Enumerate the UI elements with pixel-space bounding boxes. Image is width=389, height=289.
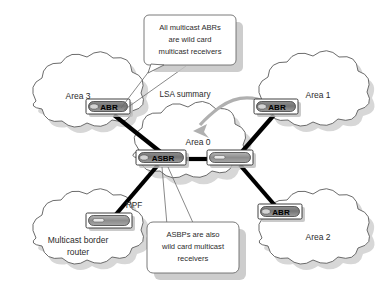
cloud-area-2: Area 2: [259, 189, 370, 264]
router-label-asbr-area-0: ASBR: [152, 154, 175, 163]
router-label-abr-area-2: ABR: [272, 208, 290, 217]
label-rpf: RPF: [126, 201, 142, 210]
cloud-label-area-0: Area 0: [185, 137, 210, 147]
cloud-label-mbr-line2: router: [67, 247, 89, 257]
router-core-area-0[interactable]: [207, 150, 256, 168]
router-multicast-border[interactable]: [86, 213, 135, 231]
callout-asbr-line-3: receivers: [178, 254, 209, 263]
cloud-label-area-2: Area 2: [305, 232, 330, 242]
link-core-to-area2: [240, 165, 278, 209]
label-lsa-summary: LSA summary: [160, 90, 212, 99]
diagram-canvas: Area 3 Area 1 Area 0 Multicast border ro…: [0, 0, 389, 289]
callout-abr-line-2: are wild card: [168, 35, 211, 44]
network-diagram: Area 3 Area 1 Area 0 Multicast border ro…: [0, 0, 389, 289]
router-label-abr-area-1: ABR: [268, 103, 286, 112]
router-abr-area-2[interactable]: ABR: [258, 204, 305, 222]
cloud-label-area-1: Area 1: [305, 90, 330, 100]
router-asbr-area-0[interactable]: ASBR: [136, 150, 189, 168]
callout-asbr: ASBPs are also wild card multicast recei…: [147, 167, 246, 280]
callout-abr-line-1: All multicast ABRs: [159, 23, 221, 32]
callout-abr-line-3: multicast receivers: [159, 47, 222, 56]
router-label-abr-area-3: ABR: [100, 103, 118, 112]
callout-asbr-line-1: ASBPs are also: [166, 230, 219, 239]
router-abr-area-1[interactable]: ABR: [254, 99, 301, 117]
cloud-label-mbr-line1: Multicast border: [48, 235, 109, 245]
callout-asbr-line-2: wild card multicast: [161, 242, 225, 251]
